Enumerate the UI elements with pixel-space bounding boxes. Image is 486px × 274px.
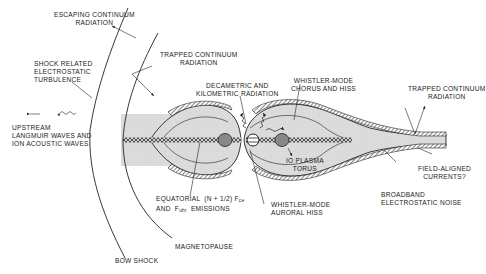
fce-subscript: ce: [239, 198, 245, 203]
label-escaping-continuum: ESCAPING CONTINUUM RADIATION: [54, 11, 135, 27]
equatorial-line1: EQUATORIAL (n + 1/2) f: [156, 195, 239, 202]
label-whistler-chorus: WHISTLER-MODE CHORUS AND HISS: [291, 77, 356, 93]
label-shock-turbulence: SHOCK RELATED ELECTROSTATIC TURBULENCE: [34, 60, 92, 85]
io-torus-left: [218, 134, 232, 147]
label-magnetopause: MAGNETOPAUSE: [175, 243, 233, 251]
fuhr-subscript: uhr: [179, 208, 187, 213]
label-io-torus: IO PLASMA TORUS: [286, 157, 324, 173]
label-trapped-continuum-right: TRAPPED CONTINUUM RADIATION: [408, 85, 486, 101]
plasma-sheet: [123, 138, 352, 143]
label-trapped-continuum-left: TRAPPED CONTINUUM RADIATION: [160, 51, 238, 67]
label-field-aligned: FIELD-ALIGNED CURRENTS?: [418, 165, 471, 181]
equatorial-line2: AND f: [156, 205, 179, 212]
label-broadband-noise: BROADBAND ELECTROSTATIC NOISE: [381, 191, 462, 207]
label-decametric-kilometric: DECAMETRIC AND KILOMETRIC RADIATION: [196, 82, 279, 98]
equatorial-line2-end: EMISSIONS: [187, 205, 230, 212]
label-bow-shock: BOW SHOCK: [115, 257, 158, 265]
io-torus-right: [275, 134, 289, 147]
label-equatorial-emissions: EQUATORIAL (n + 1/2) fceAND fuhr EMISSIO…: [156, 195, 244, 215]
label-upstream-waves: UPSTREAM LANGMUIR WAVES AND ION ACOUSTIC…: [12, 124, 92, 149]
magnetosphere-diagram: ESCAPING CONTINUUM RADIATION TRAPPED CON…: [0, 0, 486, 274]
label-whistler-auroral: WHISTLER-MODE AURORAL HISS: [271, 201, 330, 217]
jupiter-planet: [247, 134, 259, 146]
